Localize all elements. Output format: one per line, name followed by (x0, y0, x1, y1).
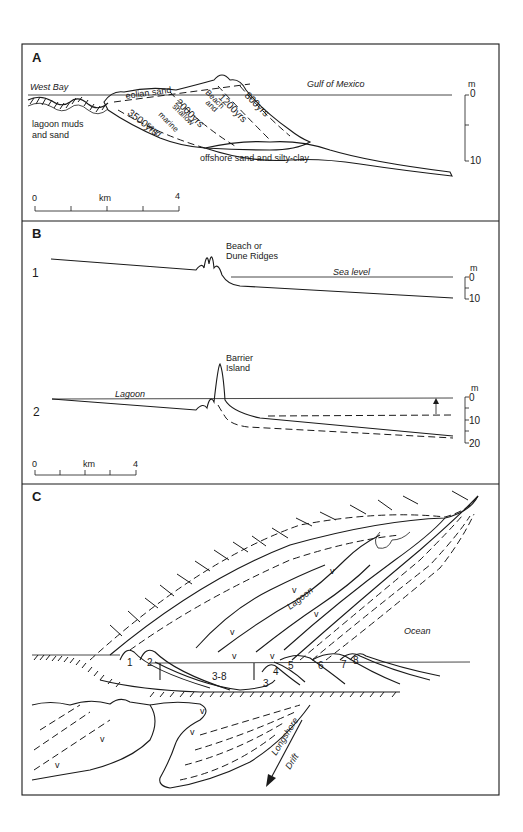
panel-label-b: B (32, 226, 41, 241)
distance-start-b: 0 (32, 459, 37, 469)
depth-tick-0-b2: 0 (469, 392, 475, 403)
label-eolian-sand: eolian sand (125, 85, 172, 101)
beach-ridges (120, 650, 440, 690)
distance-end-b: 4 (133, 459, 138, 469)
label-offshore: offshore sand and silty-clay (200, 153, 309, 163)
sea-level-line-2 (52, 398, 453, 399)
ridge-3-8: 3-8 (212, 671, 227, 682)
ridge-6: 6 (318, 660, 324, 671)
base-strandline (100, 680, 400, 692)
label-beach-or: Beach or (226, 241, 262, 251)
depth-tick-10-b2: 10 (469, 415, 481, 426)
label-drift: Drift (283, 751, 300, 771)
svg-text:v: v (270, 651, 275, 661)
label-dune-ridges: Dune Ridges (226, 251, 279, 261)
ridge-7: 7 (341, 659, 347, 670)
depth-tick-20-b2: 20 (469, 438, 481, 449)
distance-end-a: 4 (175, 191, 180, 201)
old-sea-level-dashed (268, 415, 453, 416)
lagoon-margin-1 (196, 565, 325, 648)
label-west-bay: West Bay (30, 82, 69, 92)
distance-scale-a: 0 km 4 (32, 191, 180, 211)
label-lagoon-c: Lagoon (285, 585, 315, 611)
label-lagoon-sand: and sand (32, 130, 69, 140)
ridge-4: 4 (273, 666, 279, 677)
depth-tick-10-b1: 10 (469, 293, 481, 304)
label-lagoon-b: Lagoon (115, 389, 145, 399)
panel-c: C (32, 489, 478, 788)
depth-scale-a: m 0 10 (465, 79, 482, 166)
svg-text:v: v (230, 627, 235, 637)
depth-scale-b2: m 0 10 20 (465, 383, 481, 449)
panel-a: A West Bay Gulf of Mexico lagoon muds an… (28, 50, 482, 211)
ridge-numbers: 1 2 3-8 3 4 5 6 7 8 (127, 655, 359, 689)
lower-delta-lobe (150, 702, 310, 788)
label-lagoon-muds: lagoon muds (32, 119, 84, 129)
profile-line-1 (51, 257, 453, 298)
svg-text:v: v (100, 734, 105, 744)
sea-level-rise-arrow (433, 398, 439, 414)
svg-text:v: v (55, 760, 60, 770)
lower-marsh-lobe (32, 699, 155, 780)
svg-text:v: v (314, 609, 319, 619)
profile-number-1: 1 (32, 266, 39, 280)
base-strandline-hatch (150, 692, 396, 697)
label-sea-level: Sea level (333, 267, 371, 277)
lagoon-surface (28, 97, 108, 108)
figure-canvas: A West Bay Gulf of Mexico lagoon muds an… (0, 0, 523, 832)
ridge-1: 1 (127, 657, 133, 668)
sea-surface-c (150, 662, 470, 663)
svg-text:v: v (232, 651, 237, 661)
depth-tick-10-a: 10 (470, 155, 482, 166)
depth-tick-0-a: 0 (470, 88, 476, 99)
label-gulf-of-mexico: Gulf of Mexico (307, 79, 365, 89)
label-ocean: Ocean (404, 626, 431, 636)
distance-unit-b: km (83, 459, 95, 469)
svg-text:v: v (330, 566, 335, 576)
ridge-8: 8 (353, 655, 359, 666)
profile-line-2 (52, 364, 453, 436)
lagoon-hatch (30, 97, 106, 112)
distance-start-a: 0 (32, 193, 37, 203)
depth-scale-b1: m 0 10 (465, 263, 481, 304)
ridge-3: 3 (263, 678, 269, 689)
svg-text:v: v (190, 727, 195, 737)
profile-number-2: 2 (33, 405, 40, 419)
label-barrier: Barrier (226, 353, 253, 363)
panel-b: B 1 Beach or Dune Ridges Sea level m 0 1… (32, 226, 481, 475)
ridge-5: 5 (288, 660, 294, 671)
panel-label-a: A (32, 50, 42, 65)
depth-tick-0-b1: 0 (469, 272, 475, 283)
lower-dashed-ridges (34, 705, 300, 780)
ocean-shoreline (292, 496, 478, 660)
label-island: Island (226, 363, 250, 373)
distance-scale-b: 0 km 4 (32, 459, 138, 475)
ridge-2: 2 (147, 657, 153, 668)
tidal-creek (375, 532, 410, 548)
svg-text:v: v (292, 585, 297, 595)
panel-label-c: C (32, 489, 42, 504)
distance-unit-a: km (99, 193, 111, 203)
